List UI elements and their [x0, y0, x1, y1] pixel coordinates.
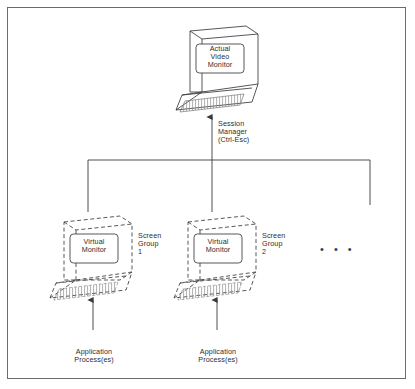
screen-group-label-2: Screen Group 2: [262, 232, 302, 255]
application-process-label-1: Application Process(es): [58, 348, 130, 364]
screen-group-label-1: Screen Group 1: [138, 232, 178, 255]
virtual-monitor-screen-label-2: Virtual Monitor: [194, 238, 242, 254]
diagram-canvas: Actual Video Monitor Session Manager (Ct…: [0, 0, 415, 389]
application-process-label-2: Application Process(es): [182, 348, 254, 364]
session-manager-label: Session Manager (Ctrl-Esc): [218, 120, 270, 143]
more-groups-ellipsis: • • •: [320, 243, 355, 255]
actual-monitor-screen-label: Actual Video Monitor: [196, 45, 244, 68]
virtual-monitor-screen-label-1: Virtual Monitor: [70, 238, 118, 254]
